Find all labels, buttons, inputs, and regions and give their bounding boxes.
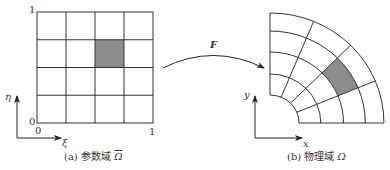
param-tick-right: 1 xyxy=(149,127,155,137)
axis-label-xi: ξ xyxy=(62,138,68,148)
caption-a-symbol: Ω xyxy=(114,151,122,162)
caption-a-text: (a) 参数域 xyxy=(64,151,111,162)
param-tick-top: 1 xyxy=(29,5,35,15)
axis-label-x: x xyxy=(303,139,309,149)
caption-b-text: (b) 物理域 xyxy=(287,151,334,162)
parametric-grid xyxy=(37,12,153,123)
physical-axes xyxy=(255,96,302,138)
caption-a: (a) 参数域 Ω xyxy=(64,151,122,163)
caption-b-symbol: Ω xyxy=(338,151,346,162)
physical-grid xyxy=(270,13,384,123)
shaded-param-cell xyxy=(95,40,124,68)
param-tick-origin-x: 0 xyxy=(35,126,41,136)
mapping-label-F: F xyxy=(210,40,217,50)
caption-b: (b) 物理域 Ω xyxy=(287,151,346,163)
axis-label-y: y xyxy=(244,90,250,100)
axis-label-eta: η xyxy=(5,92,11,102)
diagram-canvas xyxy=(0,0,390,170)
mapping-arrow xyxy=(163,56,264,69)
